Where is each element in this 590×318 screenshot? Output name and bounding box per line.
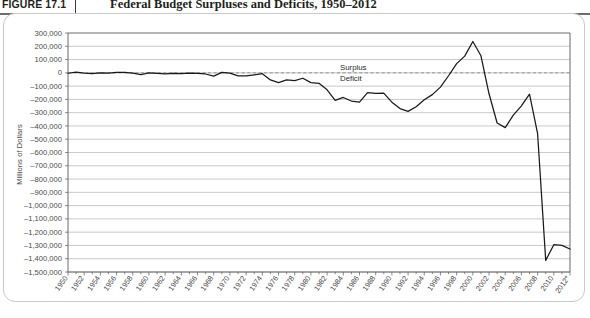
figure-frame — [3, 13, 585, 302]
figure-title: Federal Budget Surpluses and Deficits, 1… — [110, 0, 377, 12]
figure-header: FIGURE 17.1 Federal Budget Surpluses and… — [0, 0, 590, 14]
figure-number: FIGURE 17.1 — [2, 0, 66, 10]
figure-root: FIGURE 17.1 Federal Budget Surpluses and… — [0, 0, 590, 318]
header-divider — [75, 0, 76, 13]
y-axis-title: Millions of Dollars — [15, 100, 24, 210]
